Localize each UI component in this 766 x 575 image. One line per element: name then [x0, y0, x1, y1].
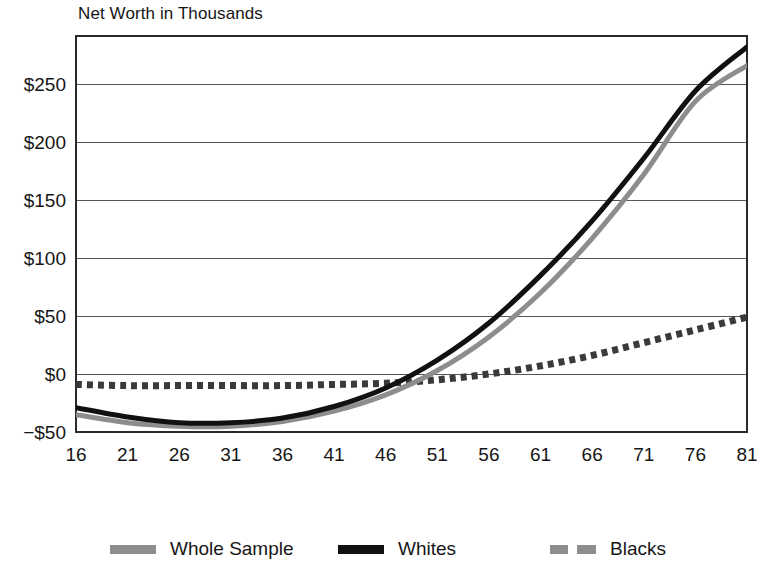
y-axis-tick-label: $100 [24, 248, 66, 269]
x-axis-tick-label: 66 [582, 444, 603, 465]
x-axis-tick-label: 76 [685, 444, 706, 465]
x-axis-tick-label: 81 [736, 444, 757, 465]
legend-item-whites: Whites [338, 538, 456, 560]
legend-item-whole-sample: Whole Sample [110, 538, 294, 560]
x-axis-tick-label: 41 [324, 444, 345, 465]
y-axis-tick-label: $150 [24, 190, 66, 211]
legend-label-whole-sample: Whole Sample [170, 538, 294, 560]
plot-svg: $250$200$150$100$50$0−$50162126313641465… [0, 0, 766, 500]
y-axis-tick-label: $0 [45, 364, 66, 385]
legend-label-blacks: Blacks [610, 538, 666, 560]
x-axis-tick-label: 21 [117, 444, 138, 465]
x-axis-tick-label: 36 [272, 444, 293, 465]
series-group [76, 47, 747, 427]
y-axis-tick-label: $200 [24, 132, 66, 153]
solid-gray-swatch-icon [110, 545, 156, 554]
x-axis-tick-label: 46 [375, 444, 396, 465]
x-axis-tick-label: 71 [633, 444, 654, 465]
y-axis-tick-label: $50 [34, 306, 66, 327]
plot-area: $250$200$150$100$50$0−$50162126313641465… [0, 0, 766, 500]
legend-item-blacks: Blacks [550, 538, 666, 560]
y-axis-tick-label: $250 [24, 74, 66, 95]
chart-legend: Whole Sample Whites Blacks [0, 532, 766, 566]
legend-label-whites: Whites [398, 538, 456, 560]
x-axis-tick-label: 61 [530, 444, 551, 465]
x-axis-tick-label: 51 [427, 444, 448, 465]
dashed-gray-swatch-icon [550, 545, 596, 554]
x-axis-tick-label: 31 [220, 444, 241, 465]
x-axis-tick-label: 26 [169, 444, 190, 465]
x-axis-tick-label: 56 [478, 444, 499, 465]
y-axis-tick-label: −$50 [23, 422, 66, 443]
chart-figure: Net Worth in Thousands $250$200$150$100$… [0, 0, 766, 575]
solid-black-swatch-icon [338, 545, 384, 554]
series-line-whites [76, 47, 747, 423]
x-axis-tick-label: 16 [65, 444, 86, 465]
